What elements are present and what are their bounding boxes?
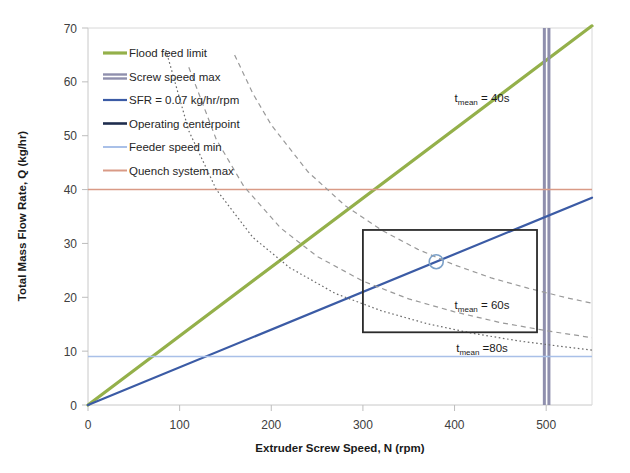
x-tick-label-500: 500 <box>536 418 556 432</box>
y-axis-ticks: 010203040506070 <box>64 22 88 413</box>
y-tick-label-40: 40 <box>64 183 78 197</box>
x-tick-label-100: 100 <box>170 418 190 432</box>
x-axis-label: Extruder Screw Speed, N (rpm) <box>255 442 425 454</box>
y-tick-label-70: 70 <box>64 22 78 36</box>
legend-label: Flood feed limit <box>129 47 208 59</box>
chart-canvas: 0100200300400500 010203040506070 tmean =… <box>0 0 630 473</box>
legend-label: Operating centerpoint <box>129 118 240 130</box>
y-axis-label: Total Mass Flow Rate, Q (kg/hr) <box>16 131 28 302</box>
legend-label: Feeder speed min <box>129 141 222 153</box>
y-tick-label-50: 50 <box>64 129 78 143</box>
chart-figure: 0100200300400500 010203040506070 tmean =… <box>0 0 630 473</box>
legend-label: SFR = 0.07 kg/hr/rpm <box>129 94 239 106</box>
legend-label: Quench system max <box>129 165 234 177</box>
y-tick-label-10: 10 <box>64 345 78 359</box>
x-axis-ticks: 0100200300400500 <box>85 405 557 432</box>
x-tick-label-0: 0 <box>85 418 92 432</box>
y-tick-label-0: 0 <box>70 399 77 413</box>
y-tick-label-60: 60 <box>64 75 78 89</box>
legend-label: Screw speed max <box>129 71 221 83</box>
x-tick-label-200: 200 <box>261 418 281 432</box>
x-tick-label-400: 400 <box>445 418 465 432</box>
x-tick-label-300: 300 <box>353 418 373 432</box>
y-tick-label-20: 20 <box>64 291 78 305</box>
y-tick-label-30: 30 <box>64 237 78 251</box>
